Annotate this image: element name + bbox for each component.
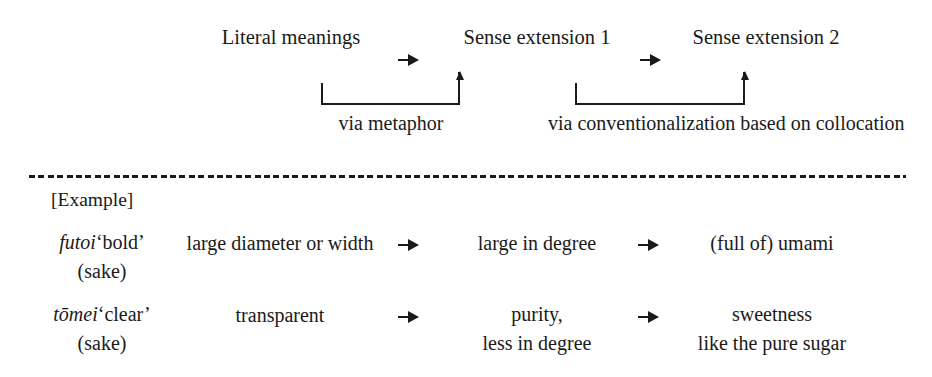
mechanism-label-conventionalization: via conventionalization based on colloca…: [548, 110, 772, 136]
dashed-divider: [29, 175, 906, 178]
bracket-left-leg: [575, 83, 577, 105]
example-literal-cell: transparent: [170, 301, 390, 330]
arrow-up-icon: [741, 71, 749, 80]
stage-label-sense-extension-1: Sense extension 1: [440, 22, 634, 52]
table-row: futoi‘bold’ (sake) large diameter or wid…: [0, 228, 932, 290]
semantic-extension-diagram: Literal meanings Sense extension 1 Sense…: [0, 0, 932, 377]
example-section-heading: [Example]: [51, 187, 133, 213]
headword-gloss: ‘clear’: [98, 303, 151, 325]
arrow-head: [408, 239, 419, 251]
cell-line-1: transparent: [236, 304, 325, 326]
stage-label-sense-extension-2: Sense extension 2: [676, 22, 856, 52]
cell-line-2: less in degree: [440, 329, 634, 358]
bracket-conventionalization: [575, 71, 745, 105]
arrow-head: [648, 239, 659, 251]
headword-context: (sake): [36, 329, 168, 358]
example-sense-1-cell: large in degree: [440, 229, 634, 258]
bracket-horizontal-bar: [575, 103, 745, 105]
stage-label-literal-meanings: Literal meanings: [196, 22, 386, 52]
arrow-head: [650, 54, 661, 66]
example-sense-1-cell: purity, less in degree: [440, 300, 634, 358]
stage-header-row: Literal meanings Sense extension 1 Sense…: [0, 22, 932, 54]
example-headword-cell: futoi‘bold’ (sake): [36, 228, 168, 286]
mechanism-line-1: via conventionalization: [548, 112, 735, 134]
headword-context: (sake): [36, 257, 168, 286]
arrow-head: [648, 311, 659, 323]
arrow-right-icon: [638, 238, 660, 252]
cell-line-2: like the pure sugar: [672, 329, 872, 358]
example-sense-2-cell: (full of) umami: [672, 229, 872, 258]
cell-line-1: large in degree: [478, 232, 596, 254]
bracket-left-leg: [321, 83, 323, 105]
example-literal-cell: large diameter or width: [170, 229, 390, 258]
arrow-head: [408, 54, 419, 66]
arrow-head: [408, 311, 419, 323]
table-row: tōmei‘clear’ (sake) transparent purity, …: [0, 300, 932, 366]
headword-lexeme: futoi: [59, 231, 96, 253]
example-headword-cell: tōmei‘clear’ (sake): [36, 300, 168, 358]
cell-line-1: sweetness: [732, 303, 812, 325]
cell-line-1: large diameter or width: [187, 232, 374, 254]
mechanism-line-2: based on collocation: [740, 112, 904, 134]
arrow-right-icon: [398, 310, 420, 324]
bracket-metaphor: [321, 71, 460, 105]
bracket-horizontal-bar: [321, 103, 460, 105]
mechanism-line-1: via metaphor: [339, 112, 444, 134]
arrow-right-icon: [640, 53, 662, 67]
arrow-up-icon: [456, 71, 464, 80]
cell-line-1: (full of) umami: [710, 232, 833, 254]
arrow-right-icon: [398, 53, 420, 67]
cell-line-1: purity,: [511, 303, 562, 325]
arrow-right-icon: [398, 238, 420, 252]
mechanism-label-metaphor: via metaphor: [306, 110, 476, 136]
headword-gloss: ‘bold’: [96, 231, 145, 253]
example-sense-2-cell: sweetness like the pure sugar: [672, 300, 872, 358]
headword-lexeme: tōmei: [53, 303, 97, 325]
arrow-right-icon: [638, 310, 660, 324]
